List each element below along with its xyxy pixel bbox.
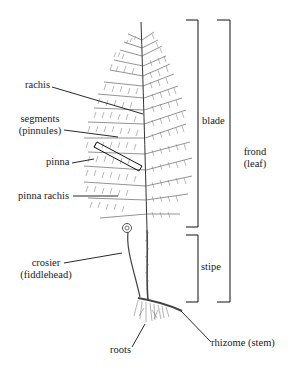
- label-rachis: rachis: [25, 79, 50, 91]
- label-blade: blade: [202, 115, 225, 127]
- leader-roots: [132, 324, 145, 347]
- label-frond: frond (leaf): [234, 146, 276, 170]
- label-roots: roots: [110, 344, 131, 356]
- frond-bracket: [217, 20, 230, 302]
- stipe-bracket: [186, 235, 198, 302]
- label-segments: segments (pinnules): [16, 113, 64, 137]
- leader-pinna: [72, 159, 94, 163]
- label-frond-line2: (leaf): [234, 158, 276, 170]
- leader-rachis: [52, 87, 143, 114]
- label-rhizome: rhizome (stem): [211, 337, 275, 349]
- fern-diagram: rachis segments (pinnules) pinna pinna r…: [0, 0, 288, 371]
- label-crosier: crosier (fiddlehead): [16, 257, 76, 281]
- leader-rhizome: [181, 311, 211, 342]
- label-stipe: stipe: [201, 261, 221, 273]
- label-crosier-line2: (fiddlehead): [16, 269, 76, 281]
- leader-segments: [64, 130, 118, 137]
- fern-illustration: [0, 0, 288, 371]
- crosier: [123, 224, 141, 298]
- rhizome: [138, 298, 182, 311]
- pinna-highlight-box: [94, 142, 142, 171]
- label-pinna-rachis: pinna rachis: [18, 190, 69, 202]
- label-pinna: pinna: [46, 156, 69, 168]
- brackets: [186, 20, 230, 302]
- label-segments-line2: (pinnules): [16, 125, 64, 137]
- label-segments-line1: segments: [16, 113, 64, 125]
- fern-blade: [84, 22, 192, 230]
- label-frond-line1: frond: [234, 146, 276, 158]
- blade-bracket: [186, 20, 198, 227]
- leader-lines: [52, 87, 211, 347]
- label-crosier-line1: crosier: [16, 257, 76, 269]
- stipe: [147, 230, 148, 300]
